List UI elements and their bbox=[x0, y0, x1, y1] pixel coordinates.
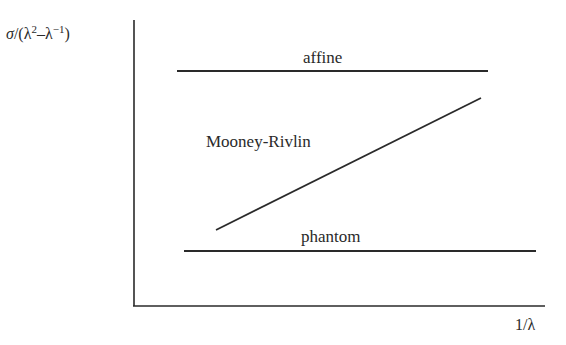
mooney-rivlin-line bbox=[216, 98, 481, 230]
affine-label: affine bbox=[303, 49, 342, 66]
y-axis-label-part: –λ bbox=[37, 25, 53, 42]
phantom-label: phantom bbox=[301, 228, 361, 245]
y-axis-label: σ/(λ2–λ−1) bbox=[6, 26, 70, 42]
y-axis-label-exponent: −1 bbox=[53, 23, 65, 35]
diagram-canvas bbox=[0, 0, 566, 345]
mooney-rivlin-label: Mooney-Rivlin bbox=[206, 133, 311, 150]
y-axis-label-sigma: σ bbox=[6, 25, 14, 42]
y-axis-label-part: /(λ bbox=[14, 25, 32, 42]
x-axis-label: 1/λ bbox=[515, 317, 535, 333]
y-axis-label-part: ) bbox=[64, 25, 69, 42]
